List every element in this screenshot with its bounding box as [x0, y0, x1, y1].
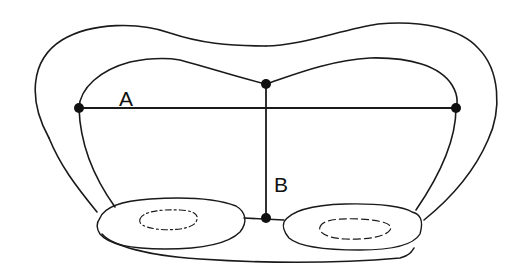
outer-contour-right	[266, 23, 497, 220]
left-pad-inner-dashed	[140, 210, 198, 230]
point-a-right	[451, 103, 461, 113]
point-b-bottom	[261, 213, 271, 223]
left-pad-outline	[97, 198, 245, 249]
outer-contour-left	[35, 25, 266, 138]
point-a-left	[74, 103, 84, 113]
label-a: A	[119, 88, 133, 109]
inner-contour-right-lower	[416, 108, 456, 210]
label-b: B	[274, 174, 288, 195]
right-pad-outline	[283, 204, 421, 250]
diagram-canvas: A B	[0, 0, 531, 275]
point-b-top	[261, 79, 271, 89]
outer-contour-left-lower	[49, 138, 97, 212]
inner-contour-left-lower	[79, 108, 115, 207]
right-pad-inner-dashed	[320, 219, 391, 239]
cross-section-drawing	[0, 0, 531, 275]
